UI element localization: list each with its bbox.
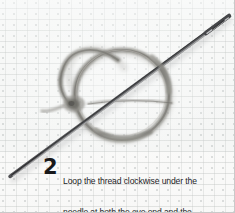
photo-grain: [0, 0, 235, 152]
instructional-photo-screenshot: 2 Loop the thread clockwise under the ne…: [0, 0, 235, 213]
caption-line-1: Loop the thread clockwise under the: [7, 176, 228, 186]
caption-text: Loop the thread clockwise under the need…: [7, 156, 228, 213]
caption-block: 2 Loop the thread clockwise under the ne…: [0, 152, 235, 213]
step-number: 2: [43, 157, 57, 178]
caption-line-2: needle at both the eye end and the: [7, 207, 228, 213]
